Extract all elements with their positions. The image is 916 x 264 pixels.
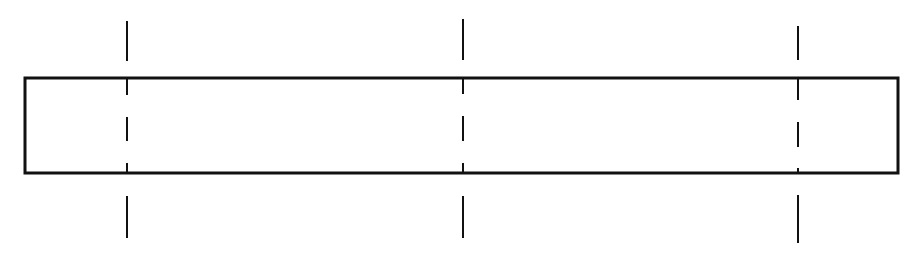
beam-rectangle [25,78,898,173]
diagram-canvas [0,0,916,264]
beam-section-diagram [0,0,916,264]
section-lines-group [127,19,798,243]
